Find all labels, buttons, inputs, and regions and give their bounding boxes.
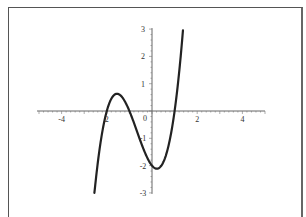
origin-label: 0 [143, 114, 147, 123]
y-tick-label: 3 [141, 25, 145, 34]
x-tick-label: 4 [240, 115, 244, 124]
y-tick-label: -2 [140, 162, 147, 171]
y-tick-label: 2 [141, 52, 145, 61]
x-tick-label: 2 [195, 115, 199, 124]
x-tick-label: -4 [58, 115, 65, 124]
function-plot: 024-42321-1-2-3 [0, 0, 306, 217]
y-tick-label: -3 [140, 189, 147, 198]
y-tick-label: 1 [141, 80, 145, 89]
axes [37, 28, 265, 194]
